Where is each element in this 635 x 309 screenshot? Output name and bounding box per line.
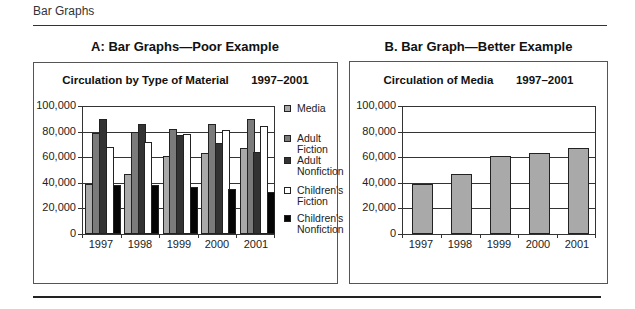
y-tick-label: 0	[16, 227, 76, 239]
y-tick-mark	[78, 106, 82, 107]
x-tick-label: 1999	[160, 238, 198, 250]
x-tick-label: 1997	[402, 238, 440, 250]
y-tick-mark	[398, 106, 402, 107]
y-tick-mark	[78, 183, 82, 184]
x-tick-label: 1998	[441, 238, 479, 250]
gridline	[403, 132, 595, 133]
x-tick-label: 2001	[237, 238, 275, 250]
top-rule	[33, 25, 607, 26]
x-tick-label: 1998	[121, 238, 159, 250]
x-tick-label: 2000	[519, 238, 557, 250]
y-tick-label: 0	[336, 227, 396, 239]
bar-1999-children-s-nonfiction	[190, 187, 198, 234]
panel-b-title: B. Bar Graph—Better Example	[349, 39, 608, 54]
x-tick-label: 1997	[82, 238, 120, 250]
chart-b-plot-area	[402, 106, 596, 235]
chart-a-plot-area	[82, 106, 275, 235]
y-tick-label: 100,000	[336, 99, 396, 111]
legend-swatch-icon	[284, 135, 291, 142]
y-tick-label: 20,000	[336, 201, 396, 213]
y-tick-mark	[398, 157, 402, 158]
gridline	[83, 132, 274, 133]
bar-1998-media	[451, 174, 472, 234]
bottom-rule	[33, 296, 601, 298]
y-tick-label: 40,000	[336, 176, 396, 188]
chart-a-title-main: Circulation by Type of Material	[62, 74, 229, 86]
chart-b-title-years: 1997–2001	[516, 74, 574, 86]
bar-2000-media	[529, 153, 550, 234]
panel-a-title: A: Bar Graphs—Poor Example	[33, 39, 337, 54]
y-tick-label: 100,000	[16, 99, 76, 111]
x-tick-label: 2000	[198, 238, 236, 250]
legend-swatch-icon	[284, 187, 291, 194]
chart-b-title-main: Circulation of Media	[384, 74, 494, 86]
legend-swatch-icon	[284, 157, 291, 164]
y-tick-label: 40,000	[16, 176, 76, 188]
bar-1998-children-s-nonfiction	[151, 185, 159, 234]
chart-a-title-years: 1997–2001	[251, 74, 309, 86]
chart-b-frame: Circulation of Media 1997–2001 100,00080…	[349, 61, 608, 284]
bar-1997-children-s-nonfiction	[113, 185, 121, 234]
y-tick-mark	[398, 132, 402, 133]
y-tick-label: 80,000	[16, 125, 76, 137]
page-header: Bar Graphs	[33, 4, 94, 18]
y-tick-mark	[78, 157, 82, 158]
chart-a-frame: Circulation by Type of Material 1997–200…	[33, 62, 338, 284]
x-tick-label: 2001	[558, 238, 596, 250]
y-tick-label: 60,000	[336, 150, 396, 162]
y-tick-label: 60,000	[16, 150, 76, 162]
chart-a-title: Circulation by Type of Material 1997–200…	[34, 74, 337, 86]
bar-2001-children-s-nonfiction	[267, 192, 275, 234]
chart-b-title: Circulation of Media 1997–2001	[350, 74, 607, 86]
y-tick-mark	[398, 208, 402, 209]
x-tick-label: 1999	[480, 238, 518, 250]
y-tick-mark	[78, 208, 82, 209]
bar-1999-media	[490, 156, 511, 234]
y-tick-label: 20,000	[16, 201, 76, 213]
bar-2001-media	[568, 148, 589, 234]
y-tick-label: 80,000	[336, 125, 396, 137]
legend-swatch-icon	[284, 215, 291, 222]
y-tick-mark	[398, 183, 402, 184]
y-tick-mark	[78, 132, 82, 133]
x-tick-mark	[274, 234, 275, 238]
x-tick-mark	[595, 234, 596, 238]
bar-1997-media	[412, 184, 433, 234]
legend-swatch-icon	[284, 105, 291, 112]
bar-2000-children-s-nonfiction	[228, 189, 236, 234]
